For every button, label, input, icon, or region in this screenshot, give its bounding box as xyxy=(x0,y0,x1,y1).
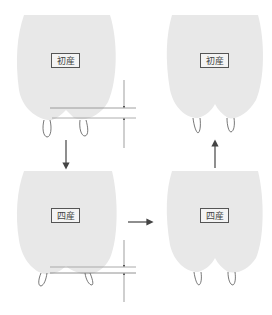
label-fourth-calving: 四産 xyxy=(51,208,80,223)
label-first-calving-recovered: 初産 xyxy=(200,53,229,68)
udder-bottom-left xyxy=(17,171,136,302)
udder-top-right xyxy=(167,15,263,133)
teat-right-icon xyxy=(228,272,235,285)
teat-right-icon xyxy=(80,120,88,136)
teat-right-icon xyxy=(227,118,234,132)
teat-left-icon xyxy=(39,273,47,286)
teat-right-icon xyxy=(85,273,93,285)
teat-left-icon xyxy=(194,272,201,285)
label-first-calving: 初産 xyxy=(51,53,80,68)
teat-left-icon xyxy=(43,120,51,137)
teat-left-icon xyxy=(193,118,200,133)
udder-top-left xyxy=(17,15,136,148)
udder-diagram xyxy=(0,0,272,315)
udder-bottom-right xyxy=(167,171,263,285)
label-fourth-calving-right: 四産 xyxy=(200,208,229,223)
